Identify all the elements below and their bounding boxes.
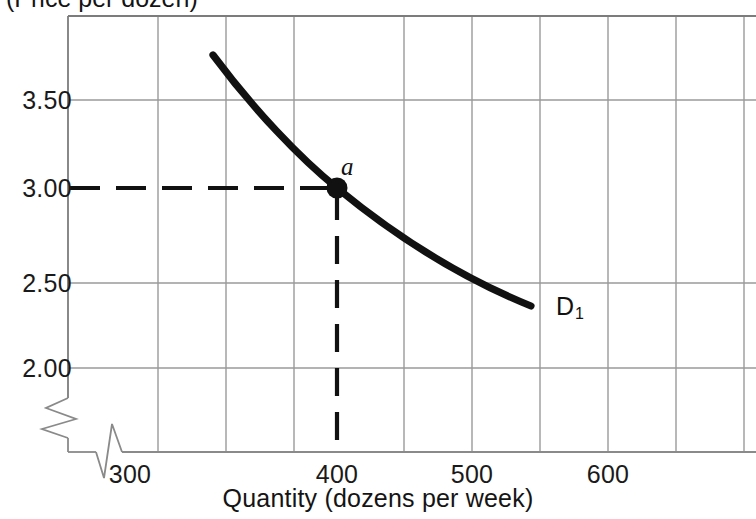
y-tick-200: 2.00 [0, 354, 72, 383]
demand-curve-figure: (Price per dozen) [0, 0, 756, 519]
demand-curve-d1 [213, 55, 531, 306]
point-a-label: a [341, 153, 354, 181]
plot-frame [68, 16, 756, 398]
curve-label-d1-subscript: 1 [575, 305, 584, 322]
curve-label-d1: D1 [556, 292, 583, 321]
y-tick-350: 3.50 [0, 86, 72, 115]
y-tick-300: 3.00 [0, 174, 72, 203]
axis-break-y [42, 398, 76, 438]
curve-label-d1-letter: D [556, 292, 574, 320]
grid-lines-vertical [158, 16, 744, 452]
grid-lines-horizontal [68, 100, 756, 368]
x-axis-title: Quantity (dozens per week) [0, 484, 756, 513]
chart-canvas [0, 0, 756, 519]
y-tick-250: 2.50 [0, 269, 72, 298]
